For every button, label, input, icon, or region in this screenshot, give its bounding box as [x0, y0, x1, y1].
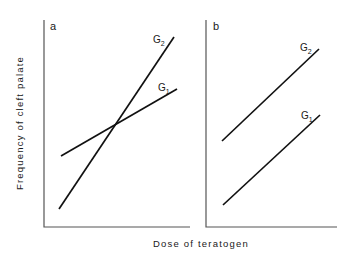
panel-a: a G2 G1 [44, 20, 190, 227]
panel-a-g1-label: G1 [158, 82, 170, 95]
panel-a-line-g1 [61, 89, 177, 156]
panel-a-g2-label: G2 [153, 34, 165, 47]
panel-b-line-g1 [223, 115, 320, 205]
panel-a-label: a [50, 20, 57, 32]
panel-b: b G2 G1 [206, 20, 337, 227]
panel-b-line-g2 [222, 49, 319, 141]
figure-canvas: a G2 G1 b G2 G1 Frequency of cleft palat… [0, 0, 357, 256]
x-axis-title: Dose of teratogen [153, 238, 249, 249]
panel-b-g2-label: G2 [300, 42, 312, 55]
panel-b-label: b [213, 20, 219, 32]
panel-b-g1-label: G1 [301, 110, 313, 123]
y-axis-title: Frequency of cleft palate [14, 56, 25, 190]
